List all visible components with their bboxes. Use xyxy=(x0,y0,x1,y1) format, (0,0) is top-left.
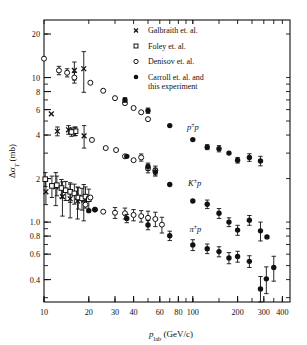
x-tick-label: 80 xyxy=(174,308,182,317)
y-tick-label: 1.0 xyxy=(30,218,40,227)
y-tick-label: 20 xyxy=(32,30,40,39)
legend-item-3[interactable]: Carroll et. al. andthis experiment xyxy=(134,73,204,92)
y-tick-label: 6 xyxy=(36,106,40,115)
series-3 xyxy=(86,97,276,302)
figure-container: 102030406080100200300400201086421.00.80.… xyxy=(0,0,307,345)
annotation-2: π±p xyxy=(189,224,201,234)
x-tick-label: 20 xyxy=(85,308,93,317)
scatter-plot: 102030406080100200300400201086421.00.80.… xyxy=(0,0,307,345)
axis-labels: plab (GeV/c)ΔσT (mb) xyxy=(7,144,193,342)
x-tick-label: 400 xyxy=(276,308,288,317)
x-tick-label: 100 xyxy=(187,308,199,317)
y-tick-label: 10 xyxy=(32,74,40,83)
y-tick-label: 0.6 xyxy=(30,250,40,259)
annotation-0: p±p xyxy=(186,122,199,132)
legend-label-cont: this experiment xyxy=(148,82,198,91)
x-axis-label: plab (GeV/c) xyxy=(148,329,193,342)
y-tick-label: 0.4 xyxy=(30,276,40,285)
y-tick-label: 4 xyxy=(36,131,40,140)
legend-item-1[interactable]: Foley et. al. xyxy=(134,42,186,51)
x-tick-label: 10 xyxy=(40,308,48,317)
series-2 xyxy=(42,56,165,233)
x-tick-label: 40 xyxy=(129,308,137,317)
legend-item-2[interactable]: Denisov et. al. xyxy=(134,57,194,66)
legend-label: Carroll et. al. and xyxy=(148,73,204,82)
legend-item-0[interactable]: Galbraith et. al. xyxy=(134,26,198,35)
legend: Galbraith et. al.Foley et. al.Denisov et… xyxy=(134,26,204,91)
annotation-1: K±p xyxy=(187,178,201,188)
y-axis-label: ΔσT (mb) xyxy=(7,144,20,178)
x-tick-label: 200 xyxy=(231,308,243,317)
y-tick-label: 0.8 xyxy=(30,232,40,241)
y-tick-label: 2 xyxy=(36,175,40,184)
x-tick-label: 30 xyxy=(111,308,119,317)
legend-label: Foley et. al. xyxy=(148,42,186,51)
x-tick-label: 300 xyxy=(258,308,270,317)
x-tick-label: 60 xyxy=(156,308,164,317)
legend-label: Galbraith et. al. xyxy=(148,26,198,35)
legend-label: Denisov et. al. xyxy=(148,57,194,66)
y-tick-label: 8 xyxy=(36,88,40,97)
y-axis-ticks: 201086421.00.80.60.4 xyxy=(30,30,290,298)
